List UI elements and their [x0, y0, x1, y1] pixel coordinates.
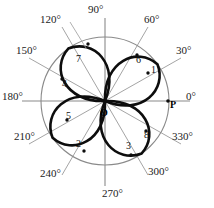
- angle-label-0: 0°: [186, 91, 196, 102]
- point-p-label: P: [170, 100, 176, 110]
- marker-point-1: [146, 71, 149, 74]
- marker-point-7: [86, 42, 89, 45]
- polar-plot-canvas: [0, 0, 214, 208]
- angle-label-120: 120°: [40, 14, 61, 25]
- angle-label-330: 330°: [172, 131, 193, 142]
- curve-point-label-6: 6: [136, 55, 141, 65]
- angle-label-210: 210°: [14, 131, 35, 142]
- polar-rose-figure: 90° 60° 30° 0° 330° 300° 270° 240° 210° …: [0, 0, 214, 208]
- curve-point-label-8: 8: [144, 130, 149, 140]
- angle-label-90: 90°: [88, 4, 103, 15]
- marker-point-2: [82, 149, 85, 152]
- curve-point-label-5: 5: [66, 111, 71, 121]
- angle-label-180: 180°: [2, 91, 23, 102]
- origin-label: O: [100, 108, 108, 118]
- angle-label-30: 30°: [176, 45, 191, 56]
- curve-point-label-2: 2: [76, 139, 81, 149]
- curve-point-label-1: 1: [151, 65, 156, 75]
- curve-point-label-7: 7: [76, 54, 81, 64]
- marker-point-3: [129, 153, 132, 156]
- curve-point-label-4: 4: [62, 79, 67, 89]
- angle-label-60: 60°: [144, 14, 159, 25]
- angle-label-150: 150°: [16, 45, 37, 56]
- angle-label-300: 300°: [148, 166, 169, 177]
- angle-label-240: 240°: [40, 168, 61, 179]
- curve-point-label-3: 3: [126, 141, 131, 151]
- angle-label-270: 270°: [102, 188, 123, 199]
